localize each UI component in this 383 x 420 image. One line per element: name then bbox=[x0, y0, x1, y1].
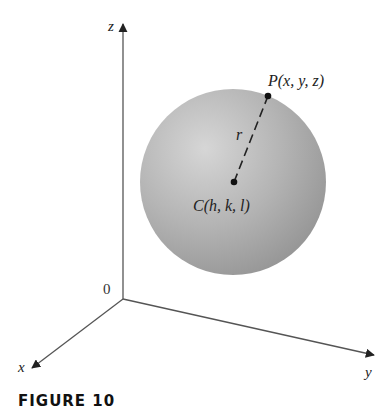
x-axis-label: x bbox=[17, 359, 25, 375]
center-label: C(h, k, l) bbox=[193, 197, 250, 215]
z-axis-label: z bbox=[107, 18, 114, 34]
figure-caption: FIGURE 10 bbox=[18, 391, 115, 411]
y-axis bbox=[123, 299, 374, 355]
origin-label: 0 bbox=[103, 281, 111, 297]
sphere-diagram: z x y 0 P(x, y, z) C(h, k, l) r bbox=[0, 0, 383, 420]
x-axis bbox=[32, 299, 123, 368]
radius-label: r bbox=[236, 126, 243, 143]
surface-point bbox=[265, 93, 272, 100]
y-axis-label: y bbox=[363, 364, 372, 380]
center-point bbox=[231, 179, 238, 186]
point-label: P(x, y, z) bbox=[267, 72, 324, 90]
